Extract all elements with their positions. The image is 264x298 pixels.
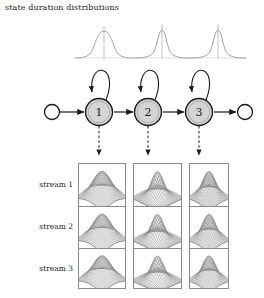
page-title: state duration distributions (5, 3, 119, 12)
stream-label-3: stream 3 (7, 264, 73, 273)
duration-curve-state-2: 2 (131, 22, 193, 62)
exit-node (238, 105, 253, 120)
observation-column-state-1 (78, 163, 126, 289)
gaussian-surface-icon (134, 164, 181, 206)
gaussian-surface-icon (190, 249, 228, 288)
stream-label-1: stream 1 (7, 180, 73, 189)
surface-cell-s3-stream2 (190, 206, 228, 248)
self-loop-state-2 (141, 70, 159, 100)
gaussian-surface-icon (134, 249, 181, 288)
svg-text:3: 3 (196, 106, 203, 119)
figure-canvas: state duration distributions 1 2 3 (0, 0, 264, 298)
self-loop-state-3 (192, 70, 210, 100)
svg-text:2: 2 (145, 106, 152, 119)
surface-cell-s2-stream2 (134, 206, 181, 248)
gaussian-curve-icon (187, 22, 249, 62)
state-node-1: 1 (86, 99, 113, 126)
gaussian-surface-icon (79, 207, 125, 248)
gaussian-surface-icon (134, 207, 181, 248)
state-node-2: 2 (135, 99, 162, 126)
duration-curve-state-3: 3 (187, 22, 249, 62)
gaussian-surface-icon (79, 164, 125, 206)
observation-column-state-2 (133, 163, 182, 289)
svg-text:1: 1 (96, 106, 103, 119)
gaussian-surface-icon (79, 249, 125, 288)
gaussian-curve-icon (131, 22, 193, 62)
stream-label-2: stream 2 (7, 222, 73, 231)
gaussian-curve-icon (73, 22, 135, 62)
state-machine-diagram: 1 2 3 (0, 62, 264, 162)
surface-cell-s2-stream3 (134, 248, 181, 288)
surface-cell-s1-stream3 (79, 248, 125, 288)
surface-cell-s3-stream3 (190, 248, 228, 288)
duration-curve-state-1: 1 (73, 22, 135, 62)
surface-cell-s1-stream2 (79, 206, 125, 248)
surface-cell-s3-stream1 (190, 164, 228, 206)
self-loop-state-1 (92, 70, 110, 100)
surface-cell-s2-stream1 (134, 164, 181, 206)
surface-cell-s1-stream1 (79, 164, 125, 206)
state-node-3: 3 (186, 99, 213, 126)
entry-node (45, 105, 60, 120)
gaussian-surface-icon (190, 164, 228, 206)
observation-column-state-3 (189, 163, 229, 289)
gaussian-surface-icon (190, 207, 228, 248)
